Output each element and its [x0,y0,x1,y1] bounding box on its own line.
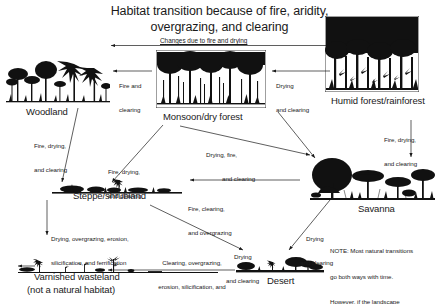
label-line: and overgrazing [188,229,232,237]
note-line: go both ways with time. [330,273,438,282]
habitat-label-monsoon: Monsoon/dry forest [163,111,243,122]
transition-label-monsoon-to-steppe: Fire, drying, and clearing [108,152,141,216]
label-line: Drying [226,253,259,261]
transition-label-humid-to-savanna: Fire, drying, and clearing [384,120,417,184]
label-line: Drying, fire, [206,151,255,159]
top-arrow-label: Changes due to fire and drying [160,37,247,45]
woodland-illustration [6,58,110,104]
label-line: and clearing [226,277,259,285]
label-line: and clearing [34,166,67,174]
label-line: and clearing [384,160,417,168]
label-line: Fire, drying, [108,168,141,176]
label-line: Drying [300,235,333,243]
habitat-sublabel-wasteland: (not a natural habitat) [27,284,115,295]
label-line: Drying, overgrazing, erosion, [51,235,129,243]
transition-label-steppe-to-wasteland: Drying, overgrazing, erosion, silicifica… [51,219,129,283]
monsoon-dry-forest-illustration [156,50,266,108]
label-line: Fire, drying, [34,142,67,150]
label-line: Fire, drying, [384,136,417,144]
transition-label-desert-to-wasteland: Clearing, overgrazing, erosion, silicifi… [150,243,234,304]
label-line: Drying [276,82,309,90]
transition-label-steppe-to-desert: Drying and clearing [226,237,259,301]
habitat-label-humid-forest: Humid forest/rainforest [331,95,425,106]
transition-label-monsoon-to-woodland: Fire and clearing [119,66,141,130]
note-block: NOTE: Most natural transitions go both w… [330,230,438,304]
label-line: silicification, and ferrification [51,259,129,267]
transition-label-savanna-to-desert: Drying and clearing [300,219,333,283]
label-line: and clearing [206,175,255,183]
habitat-label-woodland: Woodland [26,106,68,117]
diagram-canvas: Habitat transition because of fire, arid… [0,0,439,304]
note-line: However, if the landscape [330,298,438,304]
humid-forest-illustration [325,16,419,92]
label-line: and clearing [300,259,333,267]
transition-label-humid-to-monsoon: Drying and clearing [276,66,309,130]
note-line: NOTE: Most natural transitions [330,247,438,256]
label-line: and clearing [276,106,309,114]
label-line: Fire, clearing, [188,205,232,213]
habitat-label-savanna: Savanna [358,203,395,214]
label-line: and clearing [108,192,141,200]
label-line: erosion, silicification, and [150,283,234,291]
habitat-label-desert: Desert [267,275,294,286]
transition-label-woodland-to-steppe: Fire, drying, and clearing [34,126,67,190]
label-line: Fire and [119,82,141,90]
label-line: clearing [119,106,141,114]
label-line: Clearing, overgrazing, [150,259,234,267]
